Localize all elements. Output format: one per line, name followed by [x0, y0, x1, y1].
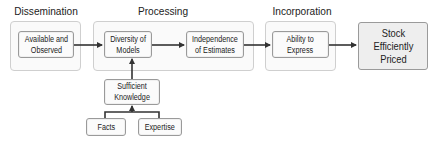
node-sufficient-knowledge: Sufficient Knowledge [104, 79, 160, 105]
node-label: Facts [97, 122, 115, 133]
node-independence-estimates: Independence of Estimates [186, 31, 244, 58]
node-available-observed: Available and Observed [18, 31, 74, 58]
node-stock-efficiently-priced: Stock Efficiently Priced [358, 22, 428, 70]
node-diversity-models: Diversity of Models [104, 31, 152, 58]
node-label: Independence of Estimates [192, 34, 238, 56]
node-expertise: Expertise [138, 118, 182, 136]
node-label: Stock Efficiently Priced [373, 27, 413, 66]
node-label: Diversity of Models [110, 34, 146, 56]
node-label: Expertise [145, 122, 175, 133]
node-label: Sufficient Knowledge [114, 81, 150, 103]
node-ability-express: Ability to Express [272, 31, 329, 58]
node-facts: Facts [86, 118, 126, 136]
node-label: Available and Observed [24, 34, 67, 56]
node-label: Ability to Express [287, 34, 314, 56]
